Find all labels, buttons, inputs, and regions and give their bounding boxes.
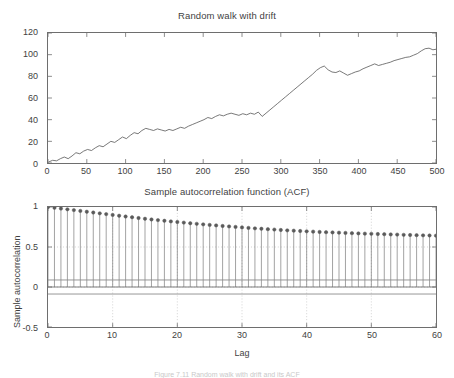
acf-panel: Sample autocorrelation function (ACF) Sa…	[0, 182, 454, 378]
figure-container: Random walk with drift 020406080100120 0…	[0, 0, 454, 378]
x-tick-label: 30	[237, 330, 247, 340]
acf-x-tick-labels: 0102030405060	[47, 330, 437, 344]
y-tick-label: 0	[33, 159, 42, 169]
x-tick-label: 10	[107, 330, 117, 340]
random-walk-title: Random walk with drift	[0, 10, 454, 21]
x-tick-label: 300	[273, 166, 288, 176]
x-tick-label: 250	[234, 166, 249, 176]
acf-y-tick-labels: 10.50-0.5	[0, 206, 42, 328]
random-walk-axes	[47, 32, 437, 164]
y-tick-label: 100	[23, 49, 42, 59]
random-walk-series-line	[49, 48, 436, 162]
random-walk-x-tick-labels: 050100150200250300350400450500	[47, 166, 437, 180]
x-tick-label: 50	[81, 166, 91, 176]
y-tick-label: -0.5	[22, 323, 42, 333]
acf-x-axis-label: Lag	[47, 348, 437, 358]
x-tick-label: 40	[302, 330, 312, 340]
x-tick-label: 400	[351, 166, 366, 176]
x-tick-label: 0	[44, 166, 49, 176]
x-tick-label: 150	[156, 166, 171, 176]
random-walk-tick-marks	[48, 33, 436, 163]
x-tick-label: 60	[432, 330, 442, 340]
y-tick-label: 40	[28, 115, 42, 125]
acf-axes	[47, 206, 437, 328]
y-tick-label: 1	[33, 201, 42, 211]
acf-title: Sample autocorrelation function (ACF)	[0, 186, 454, 197]
x-tick-label: 500	[429, 166, 444, 176]
x-tick-label: 100	[117, 166, 132, 176]
y-tick-label: 0	[33, 282, 42, 292]
x-tick-label: 350	[312, 166, 327, 176]
acf-plot-area	[48, 207, 436, 327]
x-tick-label: 0	[44, 330, 49, 340]
y-tick-label: 0.5	[25, 242, 42, 252]
y-tick-label: 120	[23, 27, 42, 37]
x-tick-label: 20	[172, 330, 182, 340]
x-tick-label: 200	[195, 166, 210, 176]
y-tick-label: 60	[28, 93, 42, 103]
random-walk-panel: Random walk with drift 020406080100120 0…	[0, 0, 454, 182]
y-tick-label: 80	[28, 71, 42, 81]
random-walk-plot-area	[48, 33, 436, 163]
x-tick-label: 450	[390, 166, 405, 176]
random-walk-y-tick-labels: 020406080100120	[0, 32, 42, 164]
y-tick-label: 20	[28, 137, 42, 147]
x-tick-label: 50	[367, 330, 377, 340]
figure-caption: Figure 7.11 Random walk with drift and i…	[0, 371, 454, 378]
